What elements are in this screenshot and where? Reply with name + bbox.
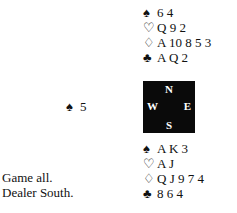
diamond-icon: ♢ bbox=[143, 171, 157, 186]
compass-south: S bbox=[143, 119, 195, 131]
compass-table: N W E S bbox=[143, 81, 195, 133]
club-icon: ♣ bbox=[143, 186, 157, 201]
spade-icon: ♠ bbox=[143, 5, 157, 20]
heart-icon: ♡ bbox=[143, 156, 157, 171]
south-clubs: ♣8 6 4 bbox=[143, 186, 204, 201]
heart-icon: ♡ bbox=[143, 20, 157, 35]
south-hearts: ♡A J bbox=[143, 156, 204, 171]
north-hearts: ♡Q 9 2 bbox=[143, 20, 211, 35]
diamond-icon: ♢ bbox=[143, 35, 157, 50]
west-card: ♠5 bbox=[66, 99, 87, 115]
spade-icon: ♠ bbox=[143, 141, 157, 156]
compass-west: W bbox=[147, 100, 158, 112]
vulnerability-text: Game all. bbox=[2, 170, 73, 185]
club-icon: ♣ bbox=[143, 50, 157, 65]
compass-east: E bbox=[184, 100, 191, 112]
compass-north: N bbox=[143, 83, 195, 95]
north-hand: ♠6 4 ♡Q 9 2 ♢A 10 8 5 3 ♣A Q 2 bbox=[143, 5, 211, 65]
north-clubs: ♣A Q 2 bbox=[143, 50, 211, 65]
spade-icon: ♠ bbox=[66, 99, 80, 115]
south-diamonds: ♢Q J 9 7 4 bbox=[143, 171, 204, 186]
north-spades: ♠6 4 bbox=[143, 5, 211, 20]
south-spades: ♠A K 3 bbox=[143, 141, 204, 156]
dealer-text: Dealer South. bbox=[2, 185, 73, 200]
south-hand: ♠A K 3 ♡A J ♢Q J 9 7 4 ♣8 6 4 bbox=[143, 141, 204, 201]
north-diamonds: ♢A 10 8 5 3 bbox=[143, 35, 211, 50]
deal-info: Game all. Dealer South. bbox=[2, 170, 73, 200]
